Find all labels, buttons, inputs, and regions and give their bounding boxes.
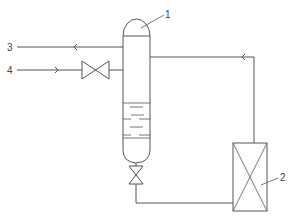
stream-3-label: 3 <box>7 42 13 53</box>
hx-label-leader <box>261 178 278 185</box>
heat-exchanger-label: 2 <box>280 172 286 183</box>
vessel-1 <box>123 15 164 163</box>
process-diagram: 1 3 4 2 <box>0 0 295 221</box>
recycle-line <box>150 54 254 143</box>
bottoms-line <box>129 163 233 203</box>
stream-3-line <box>17 44 123 50</box>
stream-4-label: 4 <box>7 65 13 76</box>
inlet-valve-icon <box>82 61 109 79</box>
bottom-valve-icon <box>129 166 143 184</box>
heat-exchanger-2 <box>233 143 278 211</box>
vessel-label-leader <box>141 15 164 28</box>
vessel-label: 1 <box>165 9 171 20</box>
liquid-level-lines <box>123 103 150 138</box>
stream-4-line <box>17 61 123 79</box>
